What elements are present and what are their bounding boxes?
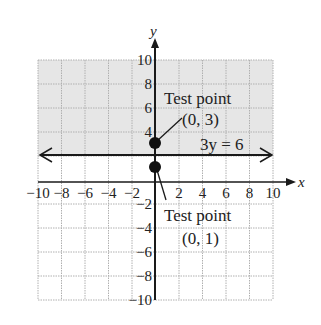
- x-tick-label: 4: [199, 185, 207, 201]
- x-tick-label: 6: [222, 185, 230, 201]
- y-tick-label: 10: [137, 52, 152, 68]
- y-axis-arrow-icon: [151, 38, 159, 48]
- y-tick-label: 4: [145, 124, 153, 140]
- x-tick-label: 10: [266, 185, 281, 201]
- x-tick-label: −4: [101, 185, 117, 201]
- test-point-upper: [149, 137, 161, 149]
- lower-point-title: Test point: [164, 206, 232, 225]
- x-tick-label: −10: [26, 185, 49, 201]
- y-axis-label: y: [148, 23, 157, 39]
- y-tick-label: −2: [136, 196, 152, 212]
- y-tick-label: 8: [145, 76, 153, 92]
- x-tick-label: −8: [54, 185, 70, 201]
- lower-point-leader: [157, 170, 166, 200]
- test-point-lower: [149, 161, 161, 173]
- x-tick-label: 2: [175, 185, 183, 201]
- y-tick-label: −10: [129, 292, 152, 308]
- upper-point-coords: (0, 3): [182, 110, 219, 129]
- x-tick-labels: −10−8−6−4−2246810: [26, 185, 280, 201]
- equation-label: 3y = 6: [200, 135, 244, 154]
- coordinate-plane: x y −10−8−6−4−2246810 10864−2−4−6−8−10 3…: [0, 0, 321, 325]
- x-tick-label: −6: [77, 185, 93, 201]
- upper-point-title: Test point: [164, 89, 232, 108]
- lower-point-coords: (0, 1): [182, 229, 219, 248]
- y-tick-label: 6: [145, 100, 153, 116]
- y-tick-label: −4: [136, 220, 152, 236]
- y-tick-label: −6: [136, 244, 152, 260]
- y-tick-label: −8: [136, 268, 152, 284]
- x-axis-arrow-icon: [286, 178, 296, 186]
- x-tick-label: 8: [246, 185, 254, 201]
- x-axis-label: x: [297, 174, 305, 190]
